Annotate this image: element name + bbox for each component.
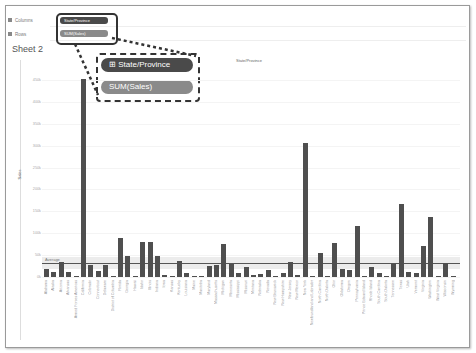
- y-tick-label: 350k: [27, 122, 41, 126]
- bar: [133, 276, 138, 277]
- bar: [44, 269, 49, 277]
- bar: [221, 244, 226, 277]
- x-tick-label: Illinois: [148, 280, 152, 290]
- x-tick-label: Ohio: [332, 280, 336, 288]
- x-tick-label: Texas: [399, 280, 403, 289]
- average-label: Average: [45, 257, 60, 262]
- bar: [184, 273, 189, 277]
- gridline: [42, 124, 460, 125]
- x-tick-label: Tennessee: [391, 280, 395, 297]
- x-tick-label: Colorado: [88, 280, 92, 295]
- gridline: [42, 255, 460, 256]
- x-tick-label: Arkansas: [66, 280, 70, 295]
- bar: [377, 273, 382, 277]
- x-tick-label: Florida: [118, 280, 122, 291]
- bar: [170, 276, 175, 277]
- bar: [51, 272, 56, 277]
- x-tick-label: Utah: [406, 280, 410, 288]
- gridline: [42, 80, 460, 81]
- bar: [199, 276, 204, 277]
- y-axis-label: Sales: [17, 169, 22, 179]
- y-tick-label: 0k: [27, 275, 41, 279]
- bar: [177, 261, 182, 277]
- x-tick-label: Alabama: [44, 280, 48, 294]
- bar: [347, 270, 352, 277]
- bar: [399, 204, 404, 277]
- bar: [244, 267, 249, 277]
- bar: [66, 272, 71, 277]
- x-tick-label: North Dakota: [325, 280, 329, 301]
- x-tick-label: Iowa: [162, 280, 166, 288]
- bar: [88, 265, 93, 277]
- y-tick-label: 100k: [27, 231, 41, 235]
- x-tick-label: Mississippi: [236, 280, 240, 297]
- bar: [318, 253, 323, 277]
- bar: [111, 276, 116, 277]
- x-tick-label: Newfoundland and Labrador: [310, 280, 314, 325]
- x-tick-label: Hawaii: [133, 280, 137, 291]
- bar: [428, 217, 433, 277]
- bar: [236, 273, 241, 277]
- bar: [251, 275, 256, 277]
- x-tick-label: Connecticut: [96, 280, 100, 299]
- bar: [192, 276, 197, 277]
- x-tick-label: Louisiana: [184, 280, 188, 295]
- y-tick-label: 450k: [27, 78, 41, 82]
- bar: [391, 264, 396, 277]
- x-tick-label: Wyoming: [451, 280, 455, 295]
- x-tick-label: Maine: [192, 280, 196, 290]
- gridline: [42, 277, 460, 278]
- x-tick-label: New Brunswick: [273, 280, 277, 305]
- y-tick-label: 200k: [27, 187, 41, 191]
- y-tick-label: 400k: [27, 100, 41, 104]
- y-tick-label: 250k: [27, 166, 41, 170]
- x-tick-label: Georgia: [125, 280, 129, 293]
- y-tick-label: 50k: [27, 253, 41, 257]
- x-tick-label: Wisconsin: [443, 280, 447, 296]
- bar: [332, 243, 337, 277]
- x-tick-label: Prince Edward Island: [362, 280, 366, 314]
- bar: [125, 256, 130, 277]
- callout-rows-pill: SUM(Sales): [101, 80, 193, 94]
- x-tick-label: Massachusetts: [214, 280, 218, 304]
- x-tick-label: Missouri: [244, 280, 248, 293]
- bar: [340, 269, 345, 277]
- x-tick-label: Washington: [428, 280, 432, 299]
- bar: [355, 226, 360, 277]
- bar: [443, 263, 448, 277]
- bar: [59, 262, 64, 277]
- bar: [369, 267, 374, 277]
- chart-header: State/Province: [236, 58, 262, 63]
- x-tick-label: South Dakota: [384, 280, 388, 302]
- x-tick-label: Kansas: [170, 280, 174, 292]
- y-tick-label: 150k: [27, 209, 41, 213]
- bar: [74, 276, 79, 277]
- bar: [118, 238, 123, 277]
- dimension-icon: ⊞: [109, 60, 118, 69]
- bar: [325, 276, 330, 277]
- callout-connector: [0, 0, 476, 353]
- x-tick-label: District of Columbia: [111, 280, 115, 311]
- x-tick-label: California: [81, 280, 85, 295]
- bar: [81, 79, 86, 277]
- x-tick-label: Oregon: [347, 280, 351, 292]
- bar: [214, 265, 219, 277]
- x-tick-label: Delaware: [103, 280, 107, 295]
- bar: [451, 276, 456, 277]
- x-tick-label: Arizona: [59, 280, 63, 292]
- x-tick-label: Alaska: [51, 280, 55, 291]
- x-tick-label: Michigan: [221, 280, 225, 294]
- x-tick-label: Indiana: [155, 280, 159, 292]
- x-tick-label: North Carolina: [318, 280, 322, 303]
- x-tick-label: Nevada: [266, 280, 270, 292]
- bar: [362, 276, 367, 277]
- x-tick-label: West Virginia: [436, 280, 440, 301]
- x-tick-label: Rhode Island: [369, 280, 373, 301]
- x-tick-label: South Carolina: [377, 280, 381, 304]
- x-tick-label: Armed Forces Americas: [74, 280, 78, 318]
- bar: [384, 276, 389, 277]
- bar: [155, 256, 160, 277]
- bar: [229, 264, 234, 277]
- x-tick-label: New Jersey: [288, 280, 292, 299]
- bar: [310, 276, 315, 277]
